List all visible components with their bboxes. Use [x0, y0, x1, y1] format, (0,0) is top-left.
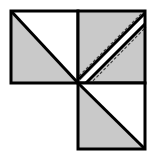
figure-container [0, 0, 149, 156]
bottom-right-square [78, 83, 145, 149]
top-right-square [78, 10, 146, 88]
top-left-square [11, 11, 78, 83]
geometric-tiling-diagram [0, 0, 149, 156]
